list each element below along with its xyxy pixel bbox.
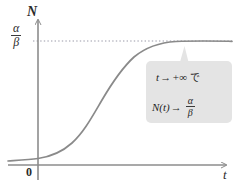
origin-label: 0 xyxy=(26,166,32,178)
callout-result-numerator: α xyxy=(186,95,195,107)
asymptote-value-label: α β xyxy=(11,22,21,49)
y-axis-label: N xyxy=(27,5,37,19)
right-arrow-icon: → xyxy=(171,101,182,113)
x-axis-label: t xyxy=(223,168,227,181)
callout-limit-variable: t xyxy=(156,71,159,83)
callout-result-function: N(t) xyxy=(152,101,170,113)
callout-limit-particle: で xyxy=(190,69,200,84)
logistic-growth-figure: N t 0 α β t → +∞ で N(t) → α β xyxy=(0,0,240,191)
callout-limit-value: +∞ xyxy=(173,71,188,83)
asymptote-denominator: β xyxy=(11,36,21,49)
callout-result-denominator: β xyxy=(186,107,195,118)
asymptote-numerator: α xyxy=(11,22,21,36)
callout-result-line: N(t) → α β xyxy=(152,95,228,118)
limit-callout-box: t → +∞ で N(t) → α β xyxy=(146,61,232,123)
callout-limit-line: t → +∞ で xyxy=(156,69,228,84)
callout-tail xyxy=(180,46,189,62)
right-arrow-icon: → xyxy=(160,71,171,83)
callout-result-fraction: α β xyxy=(186,95,195,118)
